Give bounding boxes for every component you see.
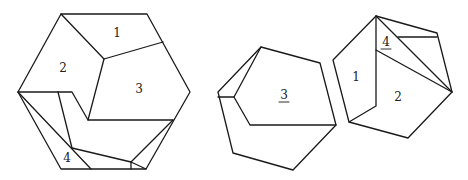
hexagon-outline bbox=[333, 16, 452, 138]
label-1: 1 bbox=[113, 26, 121, 40]
cut-line bbox=[72, 120, 173, 162]
piece-3-boundary bbox=[88, 59, 173, 120]
piece-3-arrangement: 3 bbox=[218, 47, 336, 170]
cut-line bbox=[131, 162, 146, 169]
label-4: 4 bbox=[63, 151, 71, 165]
hexagon-outline bbox=[218, 47, 336, 170]
piece-1-boundary bbox=[349, 16, 376, 122]
cut-line bbox=[376, 16, 452, 92]
pieces-1-2-4-arrangement: 4 1 2 bbox=[333, 16, 452, 138]
assembled-hexagon: 1 2 3 4 bbox=[18, 14, 190, 169]
piece-2-boundary bbox=[18, 92, 88, 120]
dissection-diagram: 1 2 3 4 3 4 1 2 bbox=[0, 0, 468, 180]
label-1: 1 bbox=[352, 70, 360, 84]
label-2: 2 bbox=[59, 61, 67, 75]
label-3: 3 bbox=[280, 88, 288, 102]
piece-1-boundary bbox=[61, 14, 163, 59]
label-4: 4 bbox=[382, 35, 390, 49]
piece-2-boundary bbox=[376, 50, 452, 92]
cut-line bbox=[58, 92, 72, 148]
label-2: 2 bbox=[394, 90, 402, 104]
label-3: 3 bbox=[135, 82, 143, 96]
